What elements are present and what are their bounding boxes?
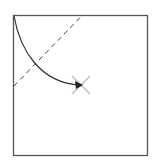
curved-arrow-path — [14, 16, 80, 85]
diagram-canvas — [0, 0, 155, 164]
